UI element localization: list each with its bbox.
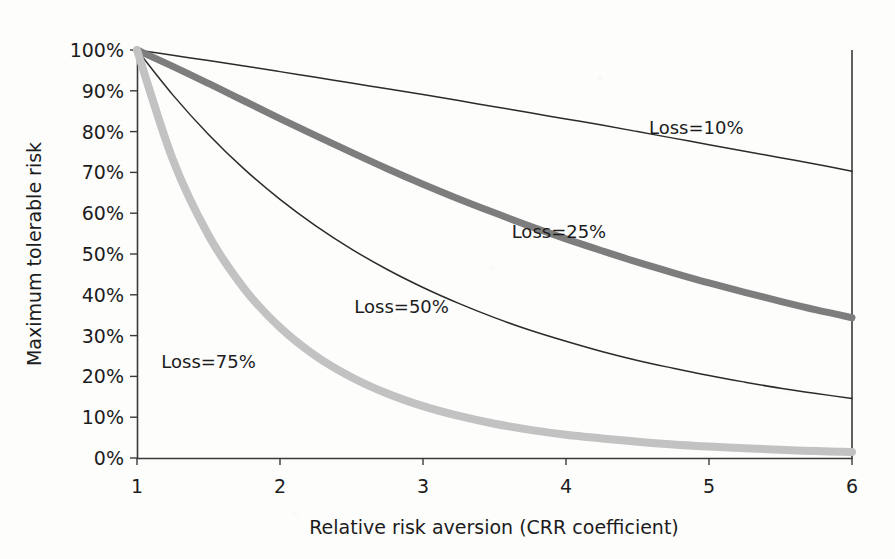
y-tick-label: 20% bbox=[82, 365, 124, 387]
y-tick-label: 100% bbox=[70, 39, 124, 61]
series-group bbox=[137, 50, 852, 452]
x-tick-label: 2 bbox=[274, 475, 286, 497]
series-label-25: Loss=25% bbox=[512, 221, 607, 242]
chart-figure: 0%10%20%30%40%50%60%70%80%90%100% 123456… bbox=[0, 0, 895, 559]
y-axis-title: Maximum tolerable risk bbox=[23, 142, 45, 366]
series-label-50: Loss=50% bbox=[354, 296, 449, 317]
x-tick-label: 3 bbox=[417, 475, 429, 497]
y-tick-label: 10% bbox=[82, 406, 124, 428]
x-axis-title: Relative risk aversion (CRR coefficient) bbox=[309, 516, 679, 538]
x-tick-label: 5 bbox=[703, 475, 715, 497]
y-tick-label-group: 0%10%20%30%40%50%60%70%80%90%100% bbox=[70, 39, 124, 469]
series-label-group: Loss=10%Loss=25%Loss=50%Loss=75% bbox=[161, 117, 743, 373]
series-line-25 bbox=[137, 50, 852, 318]
x-tick-label: 4 bbox=[560, 475, 572, 497]
y-tick-label: 90% bbox=[82, 80, 124, 102]
series-line-75 bbox=[137, 50, 852, 452]
y-tick-label: 30% bbox=[82, 325, 124, 347]
y-tick-label: 40% bbox=[82, 284, 124, 306]
series-label-75: Loss=75% bbox=[161, 351, 256, 372]
y-tick-label: 80% bbox=[82, 121, 124, 143]
y-tick-group bbox=[130, 50, 137, 458]
y-tick-label: 70% bbox=[82, 161, 124, 183]
y-tick-label: 60% bbox=[82, 202, 124, 224]
series-line-10 bbox=[137, 50, 852, 171]
y-tick-label: 0% bbox=[94, 447, 124, 469]
x-tick-label: 1 bbox=[131, 475, 143, 497]
chart-canvas: 0%10%20%30%40%50%60%70%80%90%100% 123456… bbox=[0, 0, 895, 559]
x-tick-label: 6 bbox=[846, 475, 858, 497]
x-tick-label-group: 123456 bbox=[131, 475, 858, 497]
series-label-10: Loss=10% bbox=[649, 117, 744, 138]
y-tick-label: 50% bbox=[82, 243, 124, 265]
